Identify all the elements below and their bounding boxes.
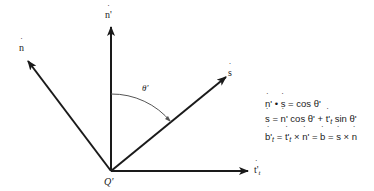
equation-2: s = n' cos θ' + t't sin θ' — [265, 111, 357, 129]
eq1-dot: • — [272, 98, 281, 109]
eq3-cross-1: × — [291, 131, 302, 142]
eq3-n: n — [352, 129, 357, 144]
eq3-equals-3: = — [325, 131, 336, 142]
eq3-equals-2: = — [309, 131, 320, 142]
label-t-prime-t: t't — [254, 165, 261, 177]
eq3-t: t' — [285, 129, 289, 144]
label-n-prime-text: n' — [105, 10, 112, 20]
label-origin-q-prime: Q' — [104, 177, 113, 187]
angle-arc — [111, 94, 171, 122]
eq1-rest: = cos θ' — [285, 98, 320, 109]
label-n-text: n — [19, 43, 24, 53]
label-n: n — [19, 43, 24, 53]
eq3-n-prime: n — [302, 129, 307, 144]
eq2-cos: cos θ' + — [288, 113, 326, 124]
label-t-text: t' — [254, 165, 259, 175]
equation-1: n' • s = cos θ' — [265, 96, 357, 111]
eq2-equals: = — [270, 113, 281, 124]
label-n-prime: n' — [105, 10, 112, 20]
label-theta-prime: θ' — [142, 84, 148, 93]
equations-block: n' • s = cos θ' s = n' cos θ' + t't sin … — [265, 96, 357, 147]
vector-n — [28, 61, 111, 171]
eq3-equals-1: = — [274, 131, 285, 142]
label-s-text: s — [228, 68, 232, 78]
eq3-b: b — [320, 129, 325, 144]
equation-3: b't = t't × n' = b = s × n — [265, 129, 357, 147]
eq3-cross-2: × — [341, 131, 352, 142]
eq3-b-prime: b' — [265, 129, 272, 144]
eq3-s: s — [336, 129, 341, 144]
label-s: s — [228, 68, 232, 78]
vector-s — [111, 77, 226, 171]
eq2-t: t' — [326, 111, 330, 126]
